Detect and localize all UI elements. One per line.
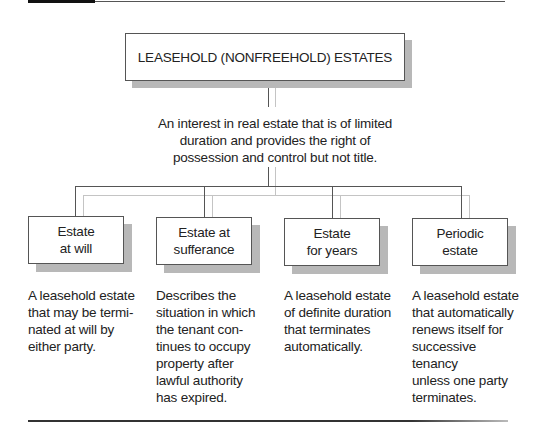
- connector-title-light: [275, 88, 276, 107]
- estate-at-will-label: Estate at will: [57, 223, 94, 257]
- drop-4-light: [469, 195, 470, 218]
- drop-2-dark: [204, 186, 205, 217]
- periodic-estate-box: Periodic estate: [412, 218, 508, 266]
- estate-at-will-description: A leasehold estate that may be termi- na…: [28, 287, 138, 355]
- estate-at-sufferance-box: Estate at sufferance: [156, 217, 252, 265]
- drop-1-light: [83, 195, 84, 216]
- periodic-estate-label: Periodic estate: [436, 225, 483, 259]
- estate-for-years-description: A leasehold estate of definite duration …: [284, 287, 394, 355]
- drop-3-light: [340, 195, 341, 218]
- footer-rule: [28, 420, 508, 422]
- title-box: LEASEHOLD (NONFREEHOLD) ESTATES: [125, 33, 405, 81]
- header-rule: [95, 1, 505, 2]
- estate-at-sufferance-description: Describes the situation in which the ten…: [156, 287, 266, 406]
- branch-horizontal-dark: [75, 186, 462, 187]
- estate-for-years-label: Estate for years: [307, 225, 358, 259]
- drop-1-dark: [75, 186, 76, 216]
- title-text: LEASEHOLD (NONFREEHOLD) ESTATES: [138, 50, 392, 65]
- estate-for-years-box: Estate for years: [284, 218, 380, 266]
- definition-text: An interest in real estate that is of li…: [150, 115, 400, 166]
- drop-4-dark: [461, 186, 462, 218]
- periodic-estate-description: A leasehold estate that automatically re…: [412, 287, 522, 406]
- drop-2-light: [212, 195, 213, 217]
- header-bar: [28, 0, 95, 3]
- estate-at-sufferance-label: Estate at sufferance: [174, 224, 235, 258]
- connector-trunk-dark: [268, 167, 269, 187]
- estate-at-will-box: Estate at will: [28, 216, 124, 264]
- branch-horizontal-light: [83, 195, 470, 196]
- connector-trunk-light: [275, 167, 276, 195]
- drop-3-dark: [332, 186, 333, 218]
